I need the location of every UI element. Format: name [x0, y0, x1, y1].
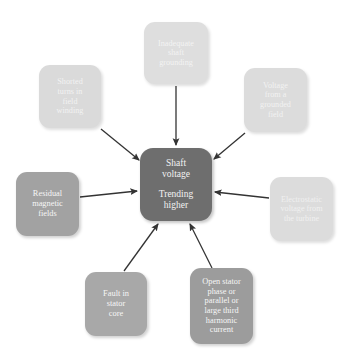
edge-bottom-left-to-center: [124, 224, 158, 271]
node-open-stator-phase-or-parallel-or-large-third-harmonic-current[interactable]: Open stator phase or parallel or large t…: [190, 268, 253, 344]
node-fault-in-stator-core[interactable]: Fault in stator core: [85, 272, 147, 336]
node-inadequate-shaft-grounding[interactable]: Inadequate shaft grounding: [144, 22, 208, 84]
edge-bottom-right-to-center: [190, 224, 212, 268]
node-electrostatic-voltage-from-the-turbine[interactable]: Electrostatic voltage from the turbine: [270, 177, 333, 241]
node-top-label: Inadequate shaft grounding: [148, 39, 204, 68]
node-center-line1: Shaft voltage: [144, 158, 208, 180]
node-residual-magnetic-fields[interactable]: Residual magnetic fields: [16, 172, 79, 236]
node-center-line2: Trending higher: [144, 189, 208, 211]
edge-right-to-center: [215, 192, 269, 198]
node-top-left-label: Shorted turns in field winding: [43, 77, 97, 115]
node-shaft-voltage-trending-higher[interactable]: Shaft voltage Trending higher: [140, 148, 212, 221]
node-shorted-turns-in-field-winding[interactable]: Shorted turns in field winding: [39, 65, 101, 128]
edge-top-left-to-center: [101, 129, 139, 160]
node-left-label: Residual magnetic fields: [20, 189, 75, 218]
node-voltage-from-a-grounded-field[interactable]: Voltage from a grounded field: [244, 68, 307, 132]
radial-cause-diagram: Shaft voltage Trending higher Inadequate…: [0, 0, 350, 362]
edge-left-to-center: [80, 191, 137, 197]
edge-top-right-to-center: [214, 133, 245, 159]
node-top-right-label: Voltage from a grounded field: [248, 81, 303, 119]
node-bottom-left-label: Fault in stator core: [89, 289, 143, 318]
node-bottom-right-label: Open stator phase or parallel or large t…: [194, 277, 249, 335]
node-right-label: Electrostatic voltage from the turbine: [274, 195, 329, 224]
